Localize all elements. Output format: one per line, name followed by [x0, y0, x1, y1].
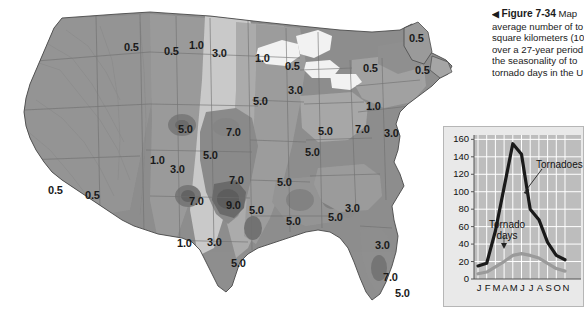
contour-label-7-0-35: 7.0 — [383, 272, 398, 283]
x-tick-label-november: N — [560, 283, 571, 293]
contour-label-5-0-29: 5.0 — [328, 212, 343, 223]
contour-label-5-0-24: 5.0 — [277, 177, 292, 188]
contour-label-1-0-19: 1.0 — [150, 155, 165, 166]
contour-label-7-0-23: 7.0 — [229, 175, 244, 186]
y-tick-label-20: 20 — [445, 257, 469, 267]
contour-label-3-0-20: 3.0 — [170, 164, 185, 175]
annotation-tornado-days-line2: days — [496, 230, 517, 241]
contour-label-0-5-7: 0.5 — [409, 33, 424, 44]
annotation-tornadoes: Tornadoes — [536, 159, 583, 170]
figure-caption: ◀ Figure 7-34 Mapaverage number of tosqu… — [492, 8, 584, 94]
y-tick-label-80: 80 — [445, 204, 469, 214]
contour-label-1-0-3: 1.0 — [255, 53, 270, 64]
contour-label-5-0-36: 5.0 — [395, 288, 410, 299]
contour-label-9-0-26: 9.0 — [226, 200, 241, 211]
y-tick-label-0: 0 — [445, 274, 469, 284]
contour-label-3-0-16: 3.0 — [384, 128, 399, 139]
contour-label-5-0-14: 5.0 — [318, 126, 333, 137]
caption-figure-number: Figure 7-34 — [502, 8, 556, 19]
annotation-tornado-days: Tornado days — [478, 219, 536, 241]
caption-line-6: tornado days in the U — [492, 67, 584, 79]
contour-label-3-0-31: 3.0 — [207, 237, 222, 248]
contour-label-0-5-22: 0.5 — [85, 190, 100, 201]
contour-label-5-0-17: 5.0 — [203, 150, 218, 161]
contour-label-0-5-6: 0.5 — [363, 63, 378, 74]
contour-label-7-0-13: 7.0 — [226, 127, 241, 138]
contour-label-0-5-8: 0.5 — [415, 65, 430, 76]
caption-line-4: over a 27-year period — [492, 44, 584, 56]
caption-line-3: square kilometers (10 — [492, 32, 584, 44]
tornado-contour-map: 0.50.51.01.03.00.50.50.50.53.05.01.05.07… — [0, 0, 470, 311]
contour-label-7-0-25: 7.0 — [189, 196, 204, 207]
contour-label-5-0-34: 5.0 — [231, 258, 246, 269]
contour-label-5-0-27: 5.0 — [249, 205, 264, 216]
caption-line-5: the seasonality of to — [492, 55, 584, 67]
contour-label-1-0-30: 1.0 — [177, 238, 192, 249]
caption-arrow-icon: ◀ — [492, 9, 502, 19]
annotation-tornado-days-line1: Tornado — [489, 219, 525, 230]
contour-label-0-5-0: 0.5 — [124, 42, 139, 53]
y-tick-label-140: 140 — [445, 152, 469, 162]
y-tick-label-120: 120 — [445, 169, 469, 179]
caption-line-1: ◀ Figure 7-34 Map — [492, 8, 584, 21]
y-tick-label-60: 60 — [445, 222, 469, 232]
y-tick-label-40: 40 — [445, 239, 469, 249]
figure-7-34-root: 0.50.51.01.03.00.50.50.50.53.05.01.05.07… — [0, 0, 584, 311]
caption-text: Map — [556, 8, 577, 19]
contour-label-1-0-2: 1.0 — [189, 40, 204, 51]
contour-label-5-0-10: 5.0 — [253, 96, 268, 107]
y-tick-label-100: 100 — [445, 187, 469, 197]
contour-label-5-0-28: 5.0 — [286, 216, 301, 227]
contour-label-3-0-9: 3.0 — [288, 85, 303, 96]
contour-label-5-0-12: 5.0 — [178, 124, 193, 135]
contour-label-0-5-1: 0.5 — [164, 46, 179, 57]
contour-label-3-0-32: 3.0 — [345, 203, 360, 214]
contour-label-1-0-11: 1.0 — [366, 101, 381, 112]
contour-label-3-0-4: 3.0 — [212, 48, 227, 59]
contour-label-0-5-21: 0.5 — [48, 185, 63, 196]
y-tick-label-160: 160 — [445, 134, 469, 144]
contour-label-7-0-15: 7.0 — [355, 124, 370, 135]
tornado-seasonality-chart: 020406080100120140160 JFMAMJJASON Tornad… — [443, 126, 584, 307]
contour-label-0-5-5: 0.5 — [285, 61, 300, 72]
contour-label-5-0-18: 5.0 — [305, 147, 320, 158]
contour-label-3-0-33: 3.0 — [375, 240, 390, 251]
caption-line-2: average number of to — [492, 21, 584, 33]
